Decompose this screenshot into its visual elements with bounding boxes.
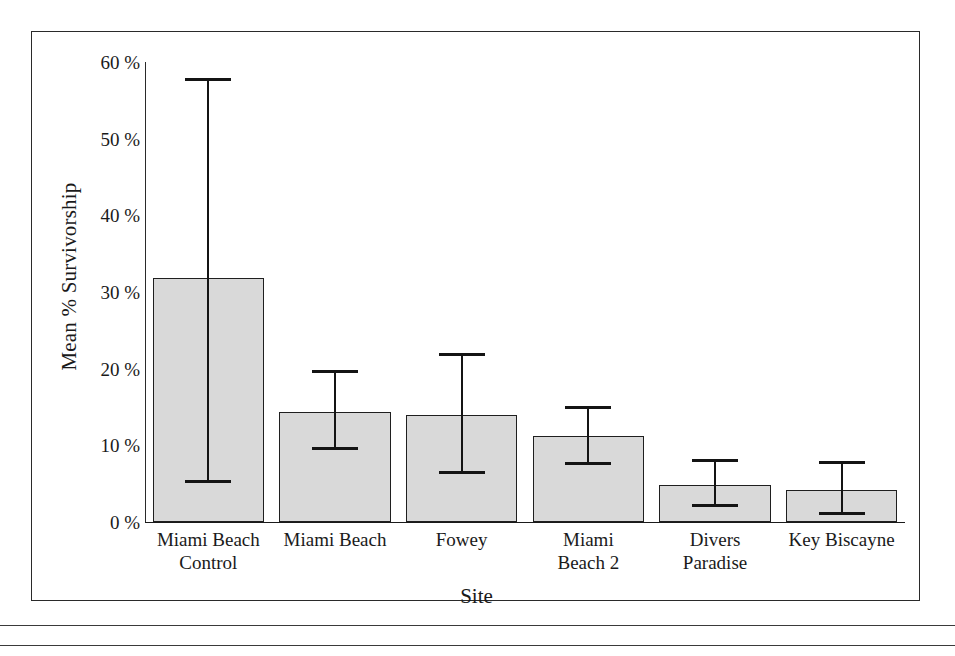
- figure-page: Mean % Survivorship 0 % 10 % 20 % 30 % 4…: [0, 0, 955, 656]
- y-tick-label-10: 10 %: [62, 436, 140, 455]
- x-tick-label-3: Fowey: [398, 528, 525, 551]
- error-cap-lower-3: [439, 471, 485, 474]
- error-bar-miami-beach-2: [587, 409, 589, 466]
- error-cap-lower-5: [692, 504, 738, 507]
- error-cap-upper-2: [312, 370, 358, 373]
- x-tick-label-1-line-1: Miami Beach: [145, 528, 272, 551]
- error-cap-lower-4: [565, 462, 611, 465]
- bar-group-4[interactable]: [525, 62, 652, 522]
- x-tick-label-4: Miami Beach 2: [525, 528, 652, 574]
- page-separator-rule-top: [0, 625, 955, 626]
- x-axis-title: Site: [32, 584, 921, 609]
- plot-area: Mean % Survivorship 0 % 10 % 20 % 30 % 4…: [32, 32, 921, 602]
- x-tick-label-2: Miami Beach: [272, 528, 399, 551]
- x-tick-label-5-line-1: Divers: [652, 528, 779, 551]
- error-bar-fowey: [461, 356, 463, 473]
- error-cap-upper-3: [439, 353, 485, 356]
- y-tick-label-20: 20 %: [62, 359, 140, 378]
- error-bar-miami-beach-control: [207, 81, 209, 483]
- x-tick-label-6: Key Biscayne: [778, 528, 905, 551]
- y-tick-label-60: 60 %: [62, 53, 140, 72]
- x-tick-label-6-line-1: Key Biscayne: [778, 528, 905, 551]
- y-tick-label-50: 50 %: [62, 129, 140, 148]
- x-tick-label-3-line-1: Fowey: [398, 528, 525, 551]
- figure-frame: Mean % Survivorship 0 % 10 % 20 % 30 % 4…: [31, 31, 920, 601]
- y-tick-label-40: 40 %: [62, 206, 140, 225]
- error-cap-lower-1: [185, 480, 231, 483]
- page-separator-rule-bottom: [0, 645, 955, 646]
- error-cap-upper-6: [819, 461, 865, 464]
- y-tick-label-0: 0 %: [62, 513, 140, 532]
- x-tick-label-5-line-2: Paradise: [652, 551, 779, 574]
- x-tick-label-5: Divers Paradise: [652, 528, 779, 574]
- bar-group-2[interactable]: [272, 62, 399, 522]
- bar-group-1[interactable]: [145, 62, 272, 522]
- y-tick-label-30: 30 %: [62, 283, 140, 302]
- x-tick-label-2-line-1: Miami Beach: [272, 528, 399, 551]
- error-cap-upper-5: [692, 459, 738, 462]
- x-tick-label-1-line-2: Control: [145, 551, 272, 574]
- error-bar-miami-beach: [334, 373, 336, 450]
- x-tick-label-4-line-2: Beach 2: [525, 551, 652, 574]
- x-tick-label-1: Miami Beach Control: [145, 528, 272, 574]
- x-tick-label-4-line-1: Miami: [525, 528, 652, 551]
- bar-group-3[interactable]: [398, 62, 525, 522]
- bar-group-5[interactable]: [652, 62, 779, 522]
- error-cap-lower-6: [819, 512, 865, 515]
- bar-group-6[interactable]: [778, 62, 905, 522]
- error-cap-lower-2: [312, 447, 358, 450]
- y-axis-tick-labels: 0 % 10 % 20 % 30 % 40 % 50 % 60 %: [62, 32, 140, 602]
- error-cap-upper-1: [185, 78, 231, 81]
- error-bar-key-biscayne: [841, 464, 843, 515]
- error-bar-divers-paradise: [714, 462, 716, 506]
- bars-layer: [145, 32, 905, 602]
- error-cap-upper-4: [565, 406, 611, 409]
